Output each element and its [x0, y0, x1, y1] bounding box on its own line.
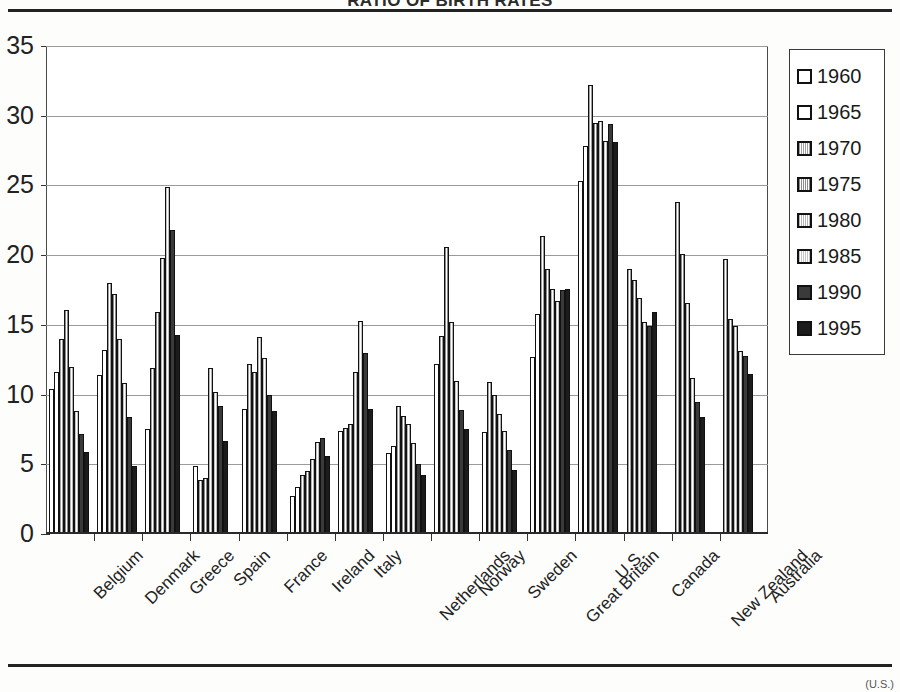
bar-group — [527, 46, 575, 534]
top-rule — [8, 9, 892, 12]
x-axis-label: Spain — [230, 546, 275, 591]
bar — [175, 335, 180, 534]
legend-swatch-icon — [797, 141, 812, 156]
bar — [223, 441, 228, 534]
bar-group — [672, 46, 720, 534]
bar-group — [46, 46, 94, 534]
legend-label: 1970 — [817, 138, 862, 158]
bar — [748, 374, 753, 534]
bar — [132, 466, 137, 534]
bar — [464, 429, 469, 534]
bar — [652, 312, 657, 534]
bar-group — [479, 46, 527, 534]
bar — [613, 142, 618, 534]
bar — [84, 452, 89, 534]
bar — [512, 470, 517, 534]
bar-group — [335, 46, 383, 534]
legend-item[interactable]: 1990 — [797, 274, 884, 310]
bar — [272, 411, 277, 534]
legend-item[interactable]: 1965 — [797, 94, 884, 130]
x-axis-label: Belgium — [90, 546, 148, 604]
bar — [421, 475, 426, 534]
bar — [700, 417, 705, 534]
y-tick-label: 10 — [0, 382, 34, 407]
bar-group — [383, 46, 431, 534]
bar — [368, 409, 373, 534]
y-tick-label: 25 — [0, 172, 34, 197]
bar — [325, 456, 330, 534]
bar-group — [239, 46, 287, 534]
page-title: RATIO OF BIRTH RATES — [0, 0, 900, 6]
x-axis-label: Ireland — [328, 546, 379, 597]
legend-item[interactable]: 1960 — [797, 58, 884, 94]
legend-swatch-icon — [797, 105, 812, 120]
y-tick-label: 15 — [0, 312, 34, 337]
bar-group — [190, 46, 238, 534]
bar-group — [431, 46, 479, 534]
legend-item[interactable]: 1980 — [797, 202, 884, 238]
legend-swatch-icon — [797, 249, 812, 264]
bar-group — [720, 46, 768, 534]
corner-note: (U.S.) — [865, 678, 894, 690]
bar-group — [142, 46, 190, 534]
legend-swatch-icon — [797, 285, 812, 300]
legend-swatch-icon — [797, 213, 812, 228]
legend-item[interactable]: 1970 — [797, 130, 884, 166]
bar-group — [575, 46, 623, 534]
y-tick-label: 30 — [0, 103, 34, 128]
legend: 19601965197019751980198519901995 — [789, 49, 885, 355]
chart-page: RATIO OF BIRTH RATES (U.S.) 051015202530… — [0, 0, 900, 692]
legend-swatch-icon — [797, 69, 812, 84]
x-axis-label: Italy — [370, 546, 406, 582]
legend-swatch-icon — [797, 321, 812, 336]
x-axis-label: Canada — [668, 546, 724, 602]
legend-label: 1980 — [817, 210, 862, 230]
legend-label: 1965 — [817, 102, 862, 122]
legend-item[interactable]: 1995 — [797, 310, 884, 346]
legend-label: 1995 — [817, 318, 862, 338]
y-tick-label: 0 — [0, 521, 34, 546]
bar-groups — [46, 46, 768, 534]
bar-group — [287, 46, 335, 534]
legend-swatch-icon — [797, 177, 812, 192]
bar-group — [94, 46, 142, 534]
legend-item[interactable]: 1985 — [797, 238, 884, 274]
y-tick-label: 5 — [0, 451, 34, 476]
bar-group — [624, 46, 672, 534]
legend-label: 1975 — [817, 174, 862, 194]
x-axis-labels: BelgiumDenmarkGreeceSpainFranceIrelandIt… — [46, 534, 768, 664]
legend-item[interactable]: 1975 — [797, 166, 884, 202]
y-tick-label: 20 — [0, 242, 34, 267]
bar — [565, 289, 570, 534]
plot-area — [46, 46, 768, 534]
x-axis-label: Sweden — [524, 546, 582, 604]
x-axis-label: France — [281, 546, 333, 598]
y-tick-label: 35 — [0, 33, 34, 58]
bottom-rule — [8, 664, 892, 667]
legend-label: 1990 — [817, 282, 862, 302]
legend-label: 1960 — [817, 66, 862, 86]
legend-label: 1985 — [817, 246, 862, 266]
